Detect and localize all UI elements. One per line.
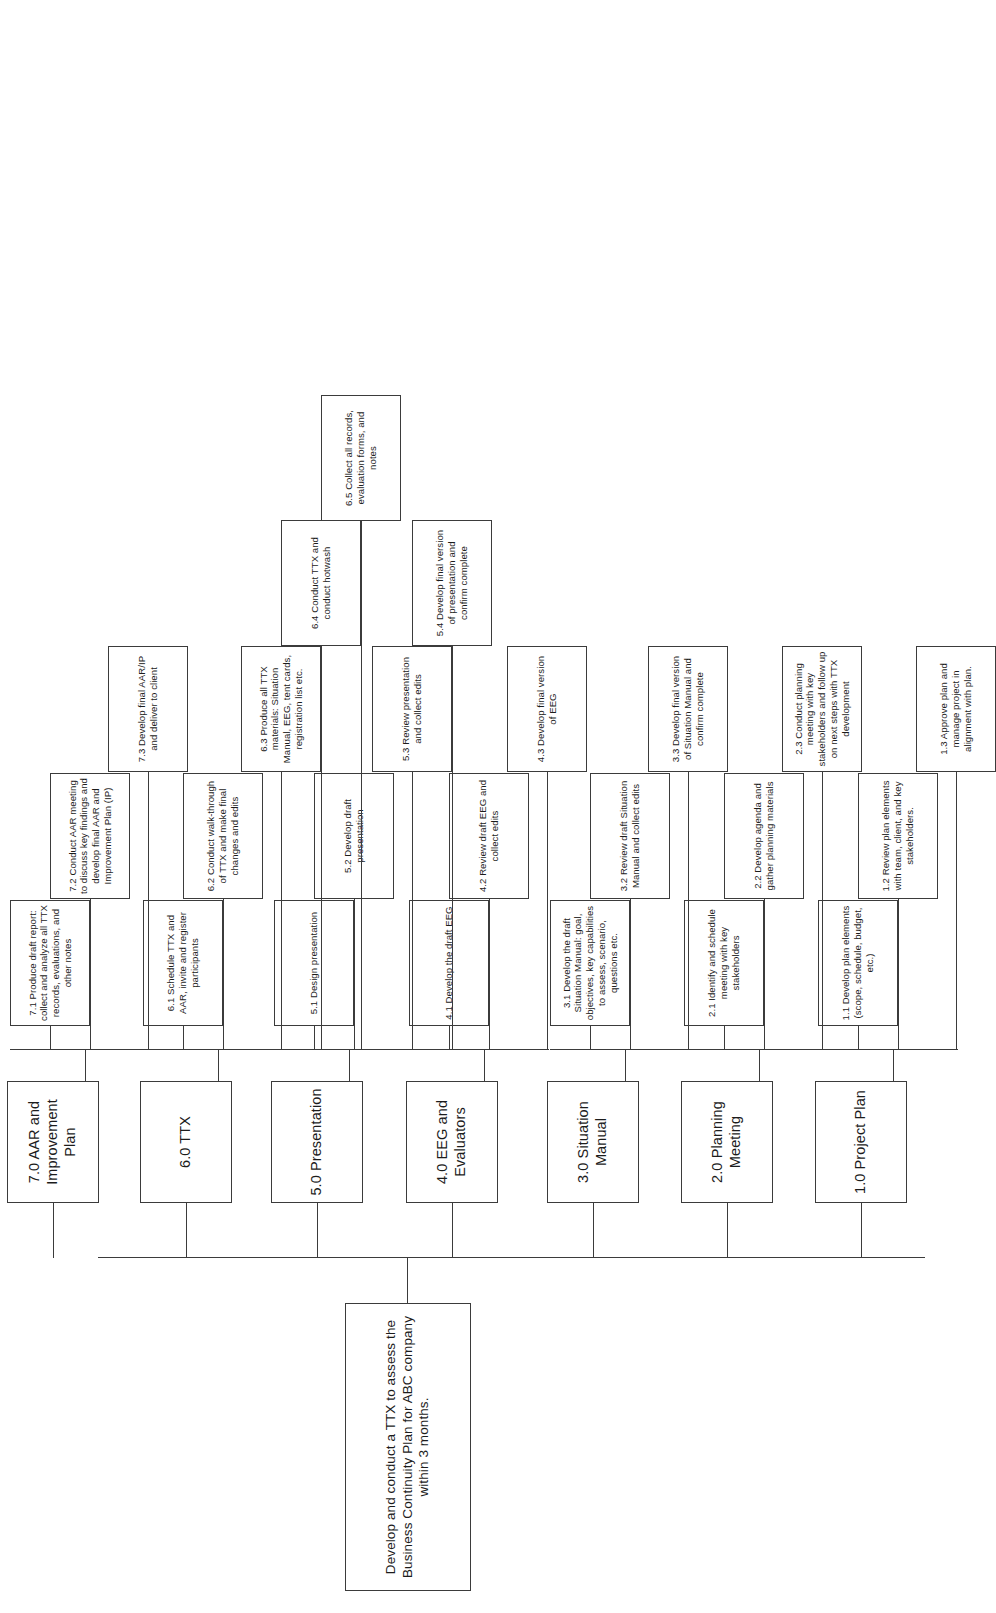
phase-node-4-label: 4.0 EEG and Evaluators <box>434 1086 469 1198</box>
phase-7-task-stem <box>85 1049 86 1081</box>
task-connector-6-3 <box>281 771 282 1050</box>
task-connector-7-3 <box>148 771 149 1050</box>
task-node-6-2-label: 6.2 Conduct walk-through of TTX and make… <box>205 778 240 894</box>
task-connector-6-1 <box>183 1025 184 1050</box>
task-node-7-2[interactable]: 7.2 Conduct AAR meeting to discuss key f… <box>50 773 130 899</box>
task-connector-6-2 <box>223 898 224 1050</box>
phase-node-7-label: 7.0 AAR and Improvement Plan <box>26 1086 79 1198</box>
task-node-6-4[interactable]: 6.4 Conduct TTX and conduct hotwash <box>281 520 361 646</box>
task-node-1-2[interactable]: 1.2 Review plan elements with team, clie… <box>858 773 938 899</box>
phase-connector-6 <box>186 1202 187 1258</box>
task-connector-7-1 <box>50 1025 51 1050</box>
task-node-6-5[interactable]: 6.5 Collect all records, evaluation form… <box>321 395 401 521</box>
phase-3-task-spine <box>550 1049 690 1050</box>
task-node-2-2[interactable]: 2.2 Develop agenda and gather planning m… <box>724 773 804 899</box>
phase-6-task-spine <box>143 1049 363 1050</box>
task-node-2-3[interactable]: 2.3 Conduct planning meeting with key st… <box>782 646 862 772</box>
task-node-4-2-label: 4.2 Review draft EEG and collect edits <box>477 778 500 894</box>
task-node-4-1[interactable]: 4.1 Develop the draft EEG <box>409 900 489 1026</box>
task-node-6-4-label: 6.4 Conduct TTX and conduct hotwash <box>309 525 332 641</box>
task-node-5-3[interactable]: 5.3 Review presentation and collect edit… <box>372 646 452 772</box>
phase-node-7[interactable]: 7.0 AAR and Improvement Plan <box>7 1081 99 1203</box>
phase-4-task-stem <box>484 1049 485 1081</box>
task-node-1-3[interactable]: 1.3 Approve plan and manage project in a… <box>916 646 996 772</box>
phase-2-task-spine <box>684 1049 824 1050</box>
phase-node-1[interactable]: 1.0 Project Plan <box>815 1081 907 1203</box>
task-node-2-3-label: 2.3 Conduct planning meeting with key st… <box>793 651 852 767</box>
task-connector-1-1 <box>858 1025 859 1050</box>
task-node-2-1[interactable]: 2.1 Identify and schedule meeting with k… <box>684 900 764 1026</box>
phase-node-6-label: 6.0 TTX <box>177 1086 195 1198</box>
phase-node-4[interactable]: 4.0 EEG and Evaluators <box>406 1081 498 1203</box>
task-node-7-2-label: 7.2 Conduct AAR meeting to discuss key f… <box>67 778 114 894</box>
task-node-7-1[interactable]: 7.1 Produce draft report: collect and an… <box>10 900 90 1026</box>
task-connector-5-4 <box>452 645 453 1050</box>
task-node-5-1[interactable]: 5.1 Design presentation <box>274 900 354 1026</box>
task-node-1-1-label: 1.1 Develop plan elements (scope, schedu… <box>840 905 875 1021</box>
task-node-3-2-label: 3.2 Review draft Situation Manual and co… <box>618 778 641 894</box>
task-node-4-3-label: 4.3 Develop final version of EEG <box>535 651 558 767</box>
task-node-5-1-label: 5.1 Design presentation <box>308 905 320 1021</box>
task-node-5-4[interactable]: 5.4 Develop final version of presentatio… <box>412 520 492 646</box>
task-node-4-3[interactable]: 4.3 Develop final version of EEG <box>507 646 587 772</box>
phase-node-5[interactable]: 5.0 Presentation <box>271 1081 363 1203</box>
task-connector-5-3 <box>412 771 413 1050</box>
phase-3-task-stem <box>625 1049 626 1081</box>
task-node-5-2[interactable]: 5.2 Develop draft presentation <box>314 773 394 899</box>
task-connector-5-2 <box>354 898 355 1050</box>
task-node-6-2[interactable]: 6.2 Conduct walk-through of TTX and make… <box>183 773 263 899</box>
task-node-2-1-label: 2.1 Identify and schedule meeting with k… <box>706 905 741 1021</box>
phase-1-task-spine <box>818 1049 958 1050</box>
task-node-7-1-label: 7.1 Produce draft report: collect and an… <box>27 905 74 1021</box>
task-node-6-3-label: 6.3 Produce all TTX materials: Situation… <box>258 651 305 767</box>
task-node-3-2[interactable]: 3.2 Review draft Situation Manual and co… <box>590 773 670 899</box>
phase-connector-4 <box>452 1202 453 1258</box>
task-node-6-1-label: 6.1 Schedule TTX and AAR, invite and reg… <box>165 905 200 1021</box>
task-node-3-3[interactable]: 3.3 Develop final version of Situation M… <box>648 646 728 772</box>
task-connector-4-3 <box>547 771 548 1050</box>
phase-node-2[interactable]: 2.0 Planning Meeting <box>681 1081 773 1203</box>
phase-node-6[interactable]: 6.0 TTX <box>140 1081 232 1203</box>
task-node-7-3-label: 7.3 Develop final AAR/IP and deliver to … <box>136 651 159 767</box>
task-node-7-3[interactable]: 7.3 Develop final AAR/IP and deliver to … <box>108 646 188 772</box>
phase-node-3[interactable]: 3.0 Situation Manual <box>547 1081 639 1203</box>
task-node-1-3-label: 1.3 Approve plan and manage project in a… <box>938 651 973 767</box>
task-connector-3-3 <box>688 771 689 1050</box>
phase-7-task-spine <box>10 1049 150 1050</box>
phase-node-5-label: 5.0 Presentation <box>308 1086 326 1198</box>
phase-node-1-label: 1.0 Project Plan <box>852 1086 870 1198</box>
task-connector-4-1 <box>449 1025 450 1050</box>
phase-connector-5 <box>317 1202 318 1258</box>
phase-6-task-stem <box>218 1049 219 1081</box>
task-node-5-3-label: 5.3 Review presentation and collect edit… <box>400 651 423 767</box>
phase-2-task-stem <box>759 1049 760 1081</box>
task-node-3-1[interactable]: 3.1 Develop the draft Situation Manual: … <box>550 900 630 1026</box>
task-node-6-1[interactable]: 6.1 Schedule TTX and AAR, invite and reg… <box>143 900 223 1026</box>
task-connector-2-1 <box>724 1025 725 1050</box>
phase-spine <box>98 1257 925 1258</box>
task-node-6-3[interactable]: 6.3 Produce all TTX materials: Situation… <box>241 646 321 772</box>
task-connector-6-4 <box>321 645 322 1050</box>
task-node-2-2-label: 2.2 Develop agenda and gather planning m… <box>752 778 775 894</box>
phase-1-task-stem <box>893 1049 894 1081</box>
task-connector-1-3 <box>956 771 957 1050</box>
task-connector-6-5 <box>361 520 362 1050</box>
phase-node-3-label: 3.0 Situation Manual <box>575 1086 610 1198</box>
root-node-label: Develop and conduct a TTX to assess the … <box>383 1308 432 1586</box>
task-connector-1-2 <box>898 898 899 1050</box>
task-connector-3-1 <box>590 1025 591 1050</box>
root-node[interactable]: Develop and conduct a TTX to assess the … <box>345 1303 471 1591</box>
phase-5-task-stem <box>349 1049 350 1081</box>
task-node-6-5-label: 6.5 Collect all records, evaluation form… <box>343 400 378 516</box>
phase-connector-7 <box>53 1202 54 1258</box>
task-connector-2-2 <box>764 898 765 1050</box>
task-node-1-1[interactable]: 1.1 Develop plan elements (scope, schedu… <box>818 900 898 1026</box>
task-connector-7-2 <box>90 898 91 1050</box>
task-node-4-2[interactable]: 4.2 Review draft EEG and collect edits <box>449 773 529 899</box>
task-connector-5-1 <box>314 1025 315 1050</box>
phase-node-2-label: 2.0 Planning Meeting <box>709 1086 744 1198</box>
phase-connector-3 <box>593 1202 594 1258</box>
task-connector-3-2 <box>630 898 631 1050</box>
